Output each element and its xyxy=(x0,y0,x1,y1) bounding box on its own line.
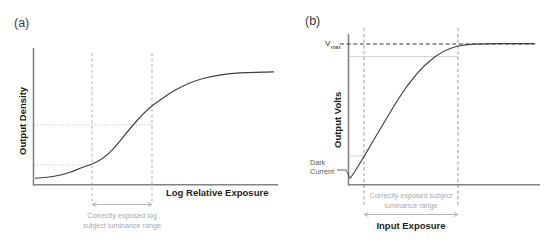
figure-container: (a) Output Density Log Relative Exposure… xyxy=(0,0,549,245)
panel-b-dark-current-line1: Dark xyxy=(310,158,326,167)
panel-b-x-axis-title: Input Exposure xyxy=(376,220,445,231)
panel-a-x-axis-title: Log Relative Exposure xyxy=(166,187,268,198)
panel-b-vmax-subscript: max xyxy=(331,44,341,50)
panel-a-annotation-line1: Correctly exposed log xyxy=(87,211,157,220)
figure-background xyxy=(0,0,549,245)
panel-a-y-axis-title: Output Density xyxy=(17,86,28,155)
panel-b-y-axis-title: Output Volts xyxy=(332,92,343,148)
panel-b-label: (b) xyxy=(305,14,320,28)
panel-b-annotation-line2: luminance range xyxy=(384,201,437,210)
panel-b-annotation-line1: Correctly exposed subject xyxy=(370,191,453,200)
two-panel-figure: (a) Output Density Log Relative Exposure… xyxy=(0,0,549,245)
panel-a-annotation-line2: subject luminance range xyxy=(83,221,161,230)
panel-a-label: (a) xyxy=(14,16,29,30)
panel-b-dark-current-line2: Current xyxy=(310,167,334,176)
